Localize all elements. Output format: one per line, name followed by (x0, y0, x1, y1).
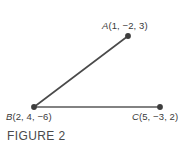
point-label-c: C(5, −3, 2) (132, 112, 178, 122)
figure-caption: FIGURE 2 (7, 130, 66, 142)
vertex-point-C (157, 104, 163, 110)
figure-container: A(1, −2, 3) B(2, 4, −6) C(5, −3, 2) FIGU… (0, 0, 193, 150)
point-coords-b: (2, 4, −6) (12, 111, 51, 122)
point-coords-a: (1, −2, 3) (108, 20, 147, 31)
point-label-a: A(1, −2, 3) (102, 21, 148, 31)
point-coords-c: (5, −3, 2) (139, 111, 178, 122)
segment-BA (34, 36, 128, 107)
point-letter-c: C (132, 111, 139, 122)
vertex-point-A (125, 33, 131, 39)
point-label-b: B(2, 4, −6) (6, 112, 52, 122)
geometry-diagram (0, 0, 193, 150)
vertex-point-B (31, 104, 37, 110)
